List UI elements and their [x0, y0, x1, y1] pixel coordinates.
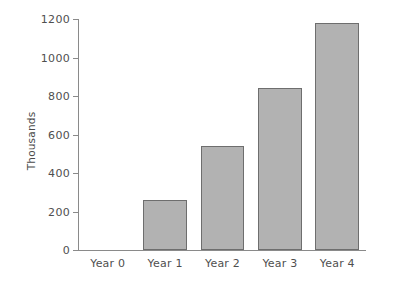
y-tick-mark [73, 58, 79, 59]
y-axis-title: Thousands [22, 0, 40, 282]
plot-area: 020040060080010001200 Year 0Year 1Year 2… [78, 19, 366, 251]
y-tick-mark [73, 19, 79, 20]
y-tick-mark [73, 173, 79, 174]
x-tick-label: Year 3 [262, 257, 297, 270]
y-tick-label: 1000 [41, 51, 70, 64]
y-tick-label: 800 [48, 90, 70, 103]
x-tick-label: Year 2 [205, 257, 240, 270]
x-tick-label: Year 0 [90, 257, 125, 270]
y-tick-label: 600 [48, 128, 70, 141]
bar [258, 88, 302, 250]
y-tick-mark [73, 96, 79, 97]
bar-chart: Thousands 020040060080010001200 Year 0Ye… [0, 0, 393, 282]
bar [201, 146, 245, 250]
y-tick-label: 0 [63, 244, 70, 257]
x-tick-label: Year 1 [148, 257, 183, 270]
y-tick-label: 400 [48, 167, 70, 180]
x-tick-label: Year 4 [320, 257, 355, 270]
y-tick-label: 200 [48, 205, 70, 218]
y-tick-mark [73, 250, 79, 251]
y-tick-mark [73, 135, 79, 136]
y-tick-mark [73, 212, 79, 213]
bar [143, 200, 187, 250]
bar [315, 23, 359, 250]
y-tick-label: 1200 [41, 13, 70, 26]
